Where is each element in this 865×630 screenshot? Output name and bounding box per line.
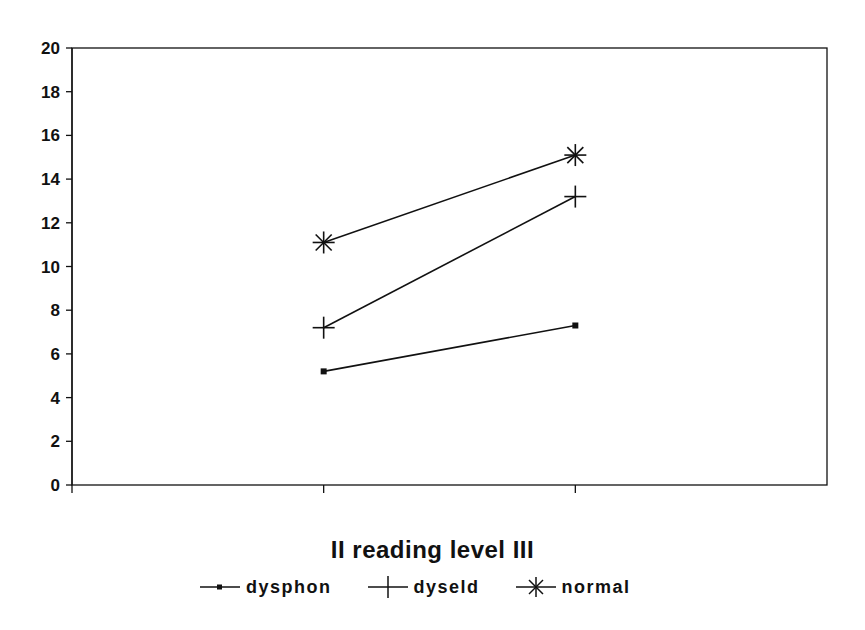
y-tick-label: 8 <box>51 301 60 320</box>
plus-marker-icon <box>368 575 408 599</box>
y-tick-label: 12 <box>41 214 60 233</box>
series-line <box>324 325 576 371</box>
square-marker-icon <box>572 322 578 328</box>
x-axis-label: II reading level III <box>0 536 865 564</box>
y-tick-label: 0 <box>51 476 60 495</box>
y-tick-label: 2 <box>51 432 60 451</box>
legend-item-dysphon: dysphon <box>200 577 332 598</box>
y-tick-label: 4 <box>51 389 61 408</box>
y-tick-label: 10 <box>41 258 60 277</box>
series-dyseld <box>313 186 587 339</box>
square-marker-icon <box>200 577 240 597</box>
y-tick-label: 6 <box>51 345 60 364</box>
legend: dysphon dyseld normal <box>200 572 667 602</box>
plus-marker-icon <box>313 317 335 339</box>
y-tick-label: 18 <box>41 83 60 102</box>
x-axis <box>324 485 576 493</box>
series-dysphon <box>321 322 579 374</box>
plot-frame <box>72 48 827 485</box>
asterisk-marker-icon <box>516 575 556 599</box>
series-normal <box>313 144 587 253</box>
series-group <box>313 144 587 374</box>
legend-label: dyseld <box>414 577 480 598</box>
square-marker-icon <box>321 368 327 374</box>
asterisk-marker-icon <box>313 231 335 253</box>
legend-label: dysphon <box>246 577 332 598</box>
y-tick-label: 16 <box>41 126 60 145</box>
series-line <box>324 197 576 328</box>
y-axis: 02468101214161820 <box>41 39 72 495</box>
plus-marker-icon <box>564 186 586 208</box>
legend-label: normal <box>562 577 631 598</box>
plot-border <box>72 48 827 485</box>
y-tick-label: 20 <box>41 39 60 58</box>
legend-item-normal: normal <box>516 575 631 599</box>
asterisk-marker-icon <box>564 144 586 166</box>
line-chart: 02468101214161820 <box>0 0 865 530</box>
series-line <box>324 155 576 242</box>
y-tick-label: 14 <box>41 170 60 189</box>
legend-item-dyseld: dyseld <box>368 575 480 599</box>
